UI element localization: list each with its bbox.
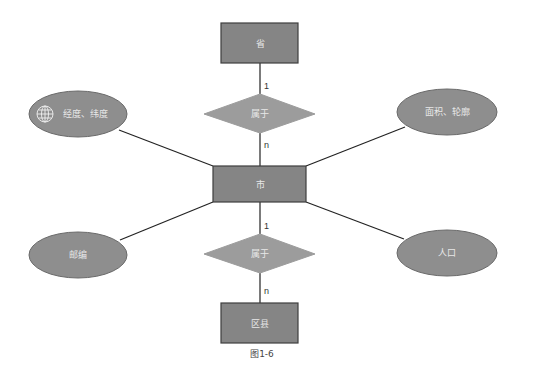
entity-province[interactable]: 省 [221, 23, 298, 63]
attribute-population-label: 人口 [438, 248, 456, 258]
attribute-lnglat[interactable]: 经度、纬度 [29, 91, 127, 137]
entity-district[interactable]: 区县 [221, 303, 298, 343]
line-lnglat-city [119, 130, 213, 166]
line-population-city [306, 202, 404, 239]
entity-city-label: 市 [256, 179, 265, 190]
attribute-area[interactable]: 面积、轮廓 [397, 89, 497, 135]
attribute-postcode-label: 邮编 [69, 249, 87, 260]
line-area-city [306, 127, 405, 166]
line-postcode-city [120, 202, 213, 240]
entity-province-label: 省 [256, 38, 265, 49]
relationship-bottom-label: 属于 [251, 249, 269, 259]
attribute-area-label: 面积、轮廓 [425, 106, 470, 117]
attribute-population[interactable]: 人口 [397, 230, 497, 276]
attribute-postcode[interactable]: 邮编 [29, 232, 127, 278]
entity-city[interactable]: 市 [213, 166, 306, 202]
relationship-top[interactable]: 属于 [204, 94, 315, 133]
relationship-bottom[interactable]: 属于 [204, 234, 315, 273]
figure-caption: 图1-6 [250, 349, 274, 359]
globe-icon [37, 106, 53, 122]
cardinality-top-many: n [264, 140, 269, 150]
cardinality-bottom-many: n [264, 286, 269, 296]
cardinality-bottom-one: 1 [264, 221, 269, 231]
cardinality-top-one: 1 [264, 81, 269, 91]
er-diagram-canvas: 省 属于 1 n 市 属于 1 n 区县 经度、纬度 [0, 0, 547, 378]
entity-district-label: 区县 [251, 319, 269, 329]
relationship-top-label: 属于 [251, 109, 269, 119]
attribute-lnglat-label: 经度、纬度 [63, 108, 108, 119]
